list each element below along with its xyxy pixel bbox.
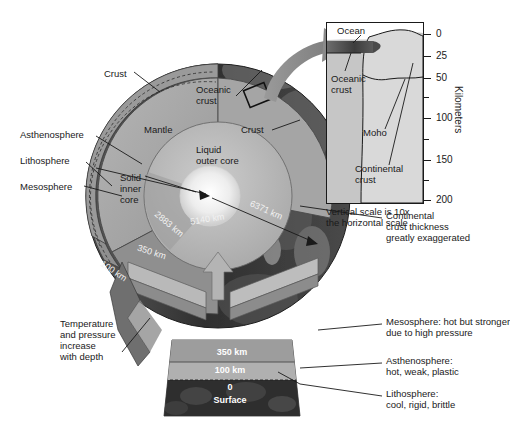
column-label-100km: 100 km (190, 365, 270, 375)
inset-label-moho: Moho (363, 127, 387, 138)
column-label-350km: 350 km (192, 347, 272, 357)
tick-label-100: 100 (436, 113, 453, 123)
tick-label-0: 0 (436, 29, 442, 39)
tick-0 (424, 34, 431, 35)
tick-25 (424, 56, 431, 57)
label-asthenosphere: Asthenosphere (20, 129, 84, 140)
label-mantle: Mantle (144, 124, 173, 135)
label-mesosphere: Mesosphere (20, 181, 72, 192)
tick-75-minor (424, 97, 429, 98)
annotation-asthenosphere: Asthenosphere: hot, weak, plastic (386, 355, 459, 377)
label-oceanic-crust: Oceanic crust (196, 84, 231, 106)
label-crust-right: Crust (241, 124, 264, 135)
inset-label-oceanic-crust: Oceanic crust (331, 73, 366, 95)
annotation-mesosphere: Mesosphere: hot but stronger due to high… (386, 316, 510, 338)
tick-label-150: 150 (436, 155, 453, 165)
inset-scale-note: Vertical scale is 10x the horizontal sca… (326, 206, 409, 228)
depth-axis-title: Kilometers (453, 86, 464, 133)
crust-detail-inset: Ocean Oceanic crust Moho Continental cru… (326, 22, 424, 204)
tick-175-minor (424, 180, 429, 181)
column-label-0: 0 (190, 382, 270, 392)
label-temperature-pressure: Temperature and pressure increase with d… (60, 318, 115, 362)
label-solid-inner-core: Solid inner core (120, 172, 141, 205)
label-crust: Crust (104, 68, 127, 79)
inset-label-ocean: Ocean (337, 25, 365, 36)
tick-100 (424, 118, 431, 119)
tick-125-minor (424, 139, 429, 140)
annotation-lithosphere: Lithosphere: cool, rigid, brittle (386, 388, 455, 410)
tick-label-50: 50 (436, 73, 447, 83)
column-label-surface: Surface (190, 395, 270, 405)
tick-150 (424, 160, 431, 161)
inset-label-continental-crust: Continental crust (355, 163, 403, 185)
label-liquid-outer-core: Liquid outer core (196, 144, 239, 166)
tick-label-200: 200 (436, 195, 453, 205)
tick-50 (424, 78, 431, 79)
tick-label-25: 25 (436, 51, 447, 61)
tick-200 (424, 200, 431, 201)
label-lithosphere: Lithosphere (20, 155, 70, 166)
